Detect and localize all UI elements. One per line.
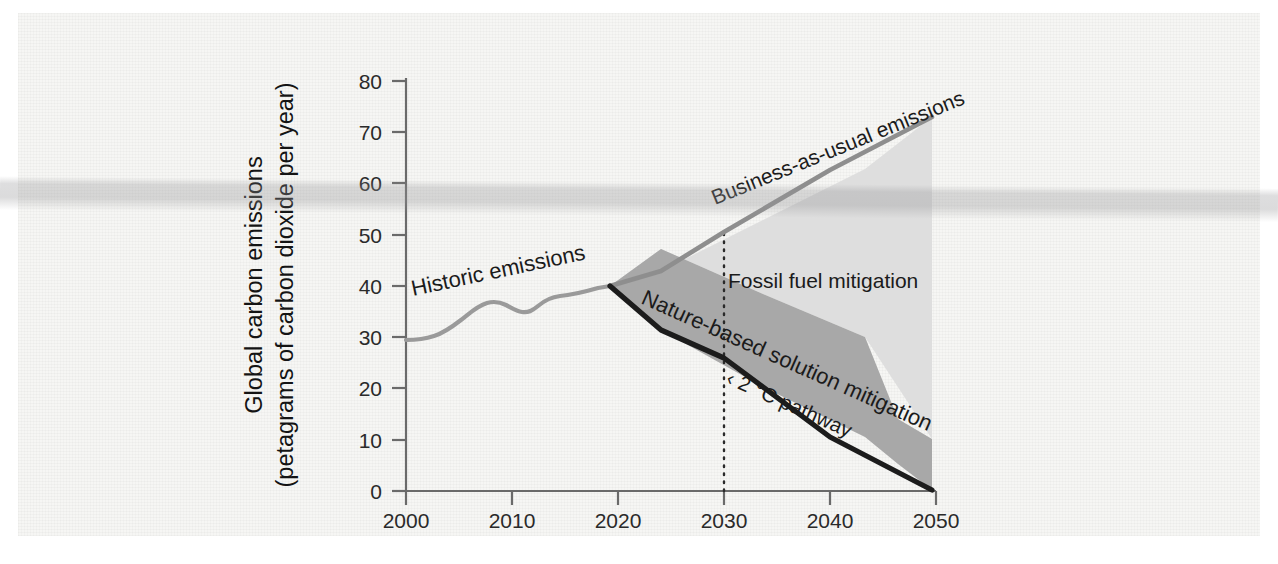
y-axis-title-line2: (petagrams of carbon dioxide per year) <box>272 83 298 488</box>
y-tick-50: 50 <box>359 224 382 247</box>
y-tick-80: 80 <box>359 70 382 93</box>
y-axis-title-line1: Global carbon emissions <box>241 156 267 413</box>
y-tick-0: 0 <box>370 480 382 503</box>
annotation-fossil-fuel-mitigation: Fossil fuel mitigation <box>728 269 918 292</box>
x-tick-2050: 2050 <box>913 509 960 532</box>
y-tick-20: 20 <box>359 377 382 400</box>
x-tick-2030: 2030 <box>701 509 748 532</box>
x-tick-2010: 2010 <box>489 509 536 532</box>
emissions-mitigation-chart: 80 70 60 50 40 30 20 10 0 2000 2010 2020… <box>0 0 1278 564</box>
x-tick-2040: 2040 <box>807 509 854 532</box>
y-tick-30: 30 <box>359 326 382 349</box>
annotation-historic-emissions: Historic emissions <box>409 240 588 301</box>
x-tick-2000: 2000 <box>383 509 430 532</box>
y-tick-60: 60 <box>359 172 382 195</box>
y-tick-40: 40 <box>359 275 382 298</box>
x-tick-2020: 2020 <box>595 509 642 532</box>
y-tick-70: 70 <box>359 121 382 144</box>
y-tick-10: 10 <box>359 429 382 452</box>
y-axis-ticks <box>392 81 406 491</box>
page-root: 80 70 60 50 40 30 20 10 0 2000 2010 2020… <box>0 0 1278 564</box>
x-axis-tick-labels: 2000 2010 2020 2030 2040 2050 <box>383 509 960 532</box>
y-axis-title: Global carbon emissions (petagrams of ca… <box>241 83 298 488</box>
y-axis-tick-labels: 80 70 60 50 40 30 20 10 0 <box>359 70 382 503</box>
x-axis-ticks <box>406 491 936 505</box>
